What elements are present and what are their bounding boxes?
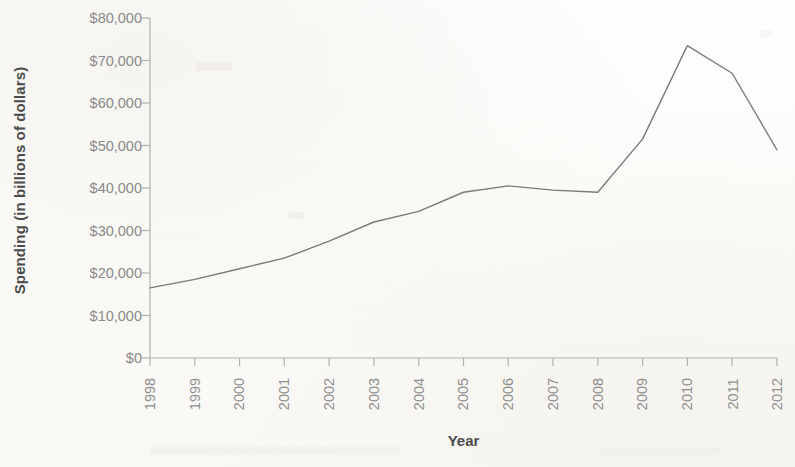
x-tick-label-text: 1998 [142, 378, 158, 410]
x-tick-label-text: 2001 [276, 378, 292, 410]
x-tick-label: 2003 [365, 366, 383, 428]
x-tick-label: 2005 [455, 366, 473, 428]
line-chart: Spending (in billions of dollars) $80,00… [0, 0, 795, 467]
y-tick-label: $10,000 [32, 308, 142, 324]
x-tick-label-text: 2010 [679, 378, 695, 410]
x-axis-ticks [150, 358, 777, 366]
x-axis-title: Year [150, 432, 777, 449]
x-tick-label: 2007 [544, 366, 562, 428]
x-tick-label-text: 2006 [500, 378, 516, 410]
y-tick-label: $0 [32, 350, 142, 366]
x-tick-label-text: 2002 [321, 378, 337, 410]
x-tick-label: 1998 [141, 366, 159, 428]
x-tick-label: 2000 [231, 366, 249, 428]
x-tick-label-text: 1999 [187, 378, 203, 410]
axis-lines-group [142, 18, 777, 366]
x-tick-label-text: 2005 [456, 378, 472, 410]
x-tick-label: 2010 [678, 366, 696, 428]
x-tick-label: 2011 [723, 366, 741, 428]
y-tick-label: $20,000 [32, 265, 142, 281]
y-tick-label: $80,000 [32, 10, 142, 26]
y-axis-title-text: Spending (in billions of dollars) [12, 66, 29, 293]
y-tick-label: $60,000 [32, 95, 142, 111]
x-tick-label: 2006 [499, 366, 517, 428]
x-tick-label: 1999 [186, 366, 204, 428]
x-tick-label-text: 2003 [366, 378, 382, 410]
x-tick-label-text: 2009 [635, 378, 651, 410]
x-tick-label: 2009 [634, 366, 652, 428]
y-tick-label: $70,000 [32, 53, 142, 69]
scan-artifact [196, 62, 232, 71]
scan-artifact [760, 30, 772, 38]
x-tick-label: 2008 [589, 366, 607, 428]
x-tick-label-text: 2004 [411, 378, 427, 410]
x-tick-label: 2004 [410, 366, 428, 428]
x-tick-label-text: 2000 [232, 378, 248, 410]
x-tick-label-text: 2011 [724, 378, 740, 409]
x-axis-tick-labels: 1998 1999 2000 2001 2002 2003 2004 2005 … [0, 366, 795, 436]
y-axis-ticks [142, 18, 150, 358]
data-series-line [150, 46, 777, 288]
y-tick-label: $30,000 [32, 223, 142, 239]
x-tick-label-text: 2008 [590, 378, 606, 410]
x-tick-label: 2012 [768, 366, 786, 428]
y-tick-label: $40,000 [32, 180, 142, 196]
x-tick-label-text: 2012 [769, 378, 785, 410]
x-tick-label: 2002 [320, 366, 338, 428]
x-tick-label-text: 2007 [545, 378, 561, 410]
x-tick-label: 2001 [275, 366, 293, 428]
scan-artifact [289, 212, 305, 219]
y-tick-label: $50,000 [32, 138, 142, 154]
